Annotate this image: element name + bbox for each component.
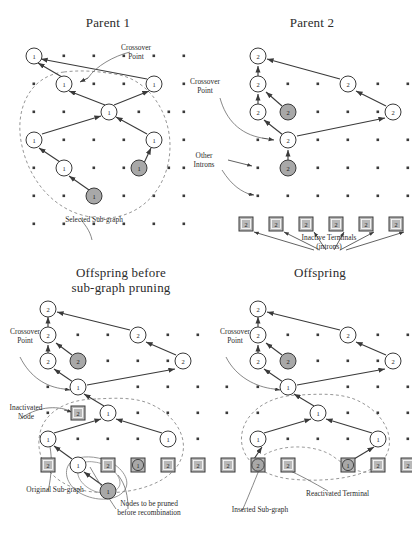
node-p2g[interactable]: 2 (280, 132, 296, 148)
terminal-label: 2 (364, 221, 367, 228)
node-p2a[interactable]: 2 (250, 48, 266, 64)
node-o2c[interactable]: 2 (340, 327, 356, 343)
node-p2f[interactable]: 2 (385, 104, 401, 120)
terminal-label: 2 (76, 410, 79, 417)
node-label: 2 (391, 109, 394, 116)
node-p1i-shaded[interactable]: 1 (86, 188, 102, 204)
node-p2d[interactable]: 2 (250, 104, 266, 120)
node-label: 1 (32, 53, 35, 60)
node-label: 1 (92, 193, 95, 200)
terminal-square-shaded[interactable]: 1 (131, 458, 145, 472)
node-o1j[interactable]: 1 (160, 431, 176, 447)
terminal-square[interactable]: 2 (161, 458, 175, 472)
terminal-label: 2 (376, 462, 379, 469)
node-o2e-shaded[interactable]: 2 (280, 353, 296, 369)
node-p2b[interactable]: 2 (250, 76, 266, 92)
node-label: 1 (76, 384, 79, 391)
terminals-parent2: 2 2 2 2 2 2 (239, 217, 403, 231)
terminal-square[interactable]: 2 (389, 217, 403, 231)
terminal-square[interactable]: 2 (221, 458, 235, 472)
node-label: 2 (286, 165, 289, 172)
terminals-offspring: 2 2 2 1 2 2 (221, 458, 412, 472)
node-label: 2 (256, 109, 259, 116)
terminal-label: 2 (256, 462, 259, 469)
node-p2e-shaded[interactable]: 2 (280, 104, 296, 120)
node-label: 2 (286, 137, 289, 144)
edges-parent2 (258, 59, 386, 160)
terminal-square[interactable]: 2 (269, 217, 283, 231)
node-label: 1 (46, 436, 49, 443)
label-inactivated-node: Inactivated Node (0, 404, 54, 422)
node-label: 2 (256, 81, 259, 88)
node-o1a[interactable]: 2 (40, 301, 56, 317)
node-o1c[interactable]: 2 (130, 327, 146, 343)
node-label: 1 (256, 436, 259, 443)
node-p1d[interactable]: 1 (101, 104, 117, 120)
node-label: 1 (62, 165, 65, 172)
node-o2i[interactable]: 1 (250, 431, 266, 447)
node-o2f[interactable]: 2 (385, 353, 401, 369)
node-label: 2 (346, 332, 349, 339)
terminal-square[interactable]: 2 (71, 406, 85, 420)
node-label: 1 (376, 436, 379, 443)
node-o1i[interactable]: 1 (40, 431, 56, 447)
node-o1h[interactable]: 1 (100, 405, 116, 421)
node-label: 2 (391, 358, 394, 365)
terminal-label: 1 (136, 462, 139, 469)
node-label: 1 (316, 410, 319, 417)
node-o1f[interactable]: 2 (175, 353, 191, 369)
node-o2g[interactable]: 1 (280, 379, 296, 395)
node-o2d[interactable]: 2 (250, 353, 266, 369)
node-p1c[interactable]: 1 (146, 76, 162, 92)
node-label: 2 (286, 358, 289, 365)
node-label: 1 (152, 81, 155, 88)
node-o1g[interactable]: 1 (70, 379, 86, 395)
label-selected-subgraph: Selected Sub-graph (48, 216, 140, 225)
node-p2c[interactable]: 2 (340, 76, 356, 92)
node-o1k[interactable]: 1 (70, 457, 86, 473)
node-label: 1 (106, 410, 109, 417)
terminal-square[interactable]: 2 (299, 217, 313, 231)
node-p1e[interactable]: 1 (26, 132, 42, 148)
terminal-square[interactable]: 2 (239, 217, 253, 231)
terminal-label: 2 (226, 462, 229, 469)
terminal-square[interactable]: 2 (329, 217, 343, 231)
node-label: 2 (46, 358, 49, 365)
terminal-reactivated[interactable]: 2 (251, 458, 265, 472)
terminal-label: 1 (346, 462, 349, 469)
terminal-square[interactable]: 2 (401, 458, 412, 472)
label-other-introns: Other Introns (182, 152, 226, 170)
node-label: 1 (76, 462, 79, 469)
terminals-offspring-before: 2 2 2 1 2 2 (41, 406, 205, 472)
terminal-label: 2 (196, 462, 199, 469)
node-label: 1 (107, 109, 110, 116)
node-o1e-shaded[interactable]: 2 (70, 353, 86, 369)
node-p2h-shaded[interactable]: 2 (280, 160, 296, 176)
node-p1f[interactable]: 1 (146, 132, 162, 148)
label-crossover-point-parent2: Crossover Point (178, 78, 232, 96)
label-inserted-subgraph: Inserted Sub-graph (214, 506, 306, 515)
terminal-square[interactable]: 2 (281, 458, 295, 472)
terminal-square[interactable]: 2 (101, 458, 115, 472)
terminal-square[interactable]: 2 (41, 458, 55, 472)
node-p1a[interactable]: 1 (26, 48, 42, 64)
terminal-square-shaded[interactable]: 1 (341, 458, 355, 472)
terminal-square[interactable]: 2 (371, 458, 385, 472)
other-introns-leader-2 (222, 170, 252, 195)
node-o1d[interactable]: 2 (40, 353, 56, 369)
node-p1h-shaded[interactable]: 1 (131, 160, 147, 176)
terminal-square[interactable]: 2 (359, 217, 373, 231)
node-p1b[interactable]: 1 (56, 76, 72, 92)
node-p1g[interactable]: 1 (56, 160, 72, 176)
nodes-offspring: 2 2 2 2 2 2 1 1 1 1 (250, 301, 401, 447)
node-label: 1 (166, 436, 169, 443)
node-label: 1 (106, 488, 109, 495)
terminal-label: 2 (106, 462, 109, 469)
node-label: 2 (256, 358, 259, 365)
terminal-label: 2 (286, 462, 289, 469)
terminal-square[interactable]: 2 (191, 458, 205, 472)
node-o2h[interactable]: 1 (310, 405, 326, 421)
node-o2j[interactable]: 1 (370, 431, 386, 447)
node-o2a[interactable]: 2 (250, 301, 266, 317)
terminal-label: 2 (274, 221, 277, 228)
